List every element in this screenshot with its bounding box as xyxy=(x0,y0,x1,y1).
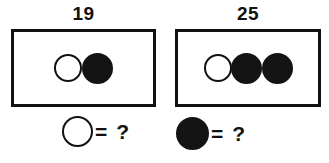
group-right: 25 xyxy=(175,4,321,107)
white-circle-icon xyxy=(62,116,93,147)
white-circle-icon xyxy=(204,54,232,82)
legend-black-circle: = ? xyxy=(176,117,245,150)
puzzle-canvas: 19 25 = ? = ? xyxy=(0,0,329,163)
black-circle-icon xyxy=(176,117,209,150)
black-circle-icon xyxy=(231,53,262,84)
legend-white-equals: = xyxy=(95,121,107,142)
group-left: 19 xyxy=(11,4,156,107)
black-circle-icon xyxy=(262,53,293,84)
legend-black-question: ? xyxy=(232,123,245,144)
group-right-box xyxy=(175,29,321,107)
black-circle-icon xyxy=(82,53,113,84)
group-left-box xyxy=(11,29,156,107)
legend-white-circle: = ? xyxy=(62,116,129,147)
group-right-total: 25 xyxy=(175,4,321,24)
group-right-circles xyxy=(178,32,318,104)
white-circle-icon xyxy=(54,54,82,82)
group-left-circles xyxy=(14,32,153,104)
group-left-total: 19 xyxy=(11,4,156,24)
legend-black-equals: = xyxy=(211,123,223,144)
legend-white-question: ? xyxy=(116,121,129,142)
